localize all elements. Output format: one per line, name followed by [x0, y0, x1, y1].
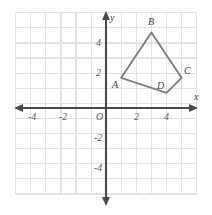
vertex-label-d: D: [157, 81, 164, 91]
y-tick-label-4: 4: [96, 38, 101, 48]
x-tick-label-neg2: -2: [59, 112, 67, 122]
x-tick-label-4: 4: [164, 112, 169, 122]
coordinate-plane-figure: -4 -2 2 4 4 2 -2 -4 O x y A B C D: [0, 0, 212, 215]
vertex-label-a: A: [112, 80, 118, 90]
y-axis-label: y: [110, 13, 114, 23]
x-axis-label: x: [194, 92, 198, 102]
vertex-label-c: C: [184, 66, 191, 76]
y-axis-arrow-down: [102, 197, 110, 206]
vertex-label-b: B: [148, 17, 154, 27]
axes: [17, 13, 195, 204]
plot-svg: [0, 0, 212, 215]
y-tick-label-neg2: -2: [94, 133, 102, 143]
x-tick-label-neg4: -4: [28, 112, 36, 122]
x-tick-label-2: 2: [134, 112, 139, 122]
origin-label: O: [96, 112, 103, 122]
y-tick-label-2: 2: [96, 68, 101, 78]
y-tick-label-neg4: -4: [94, 163, 102, 173]
